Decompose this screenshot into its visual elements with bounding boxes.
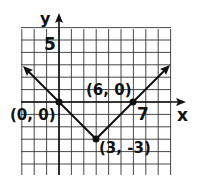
point-label-origin: (0, 0) [10,106,56,124]
point-label-vertex: (3, -3) [99,139,151,157]
x-tick-7: 7 [137,104,149,124]
y-axis-label: y [40,9,51,28]
x-axis-label: x [177,105,188,125]
chart: y x 5 7 (0, 0) (3, -3) (6, 0) [0,0,201,184]
point-x-intercept [130,99,137,106]
x-axis [21,98,186,106]
y-axis [55,13,63,175]
point-origin [56,99,63,106]
point-label-x-intercept: (6, 0) [86,81,132,99]
y-tick-5: 5 [44,34,56,54]
